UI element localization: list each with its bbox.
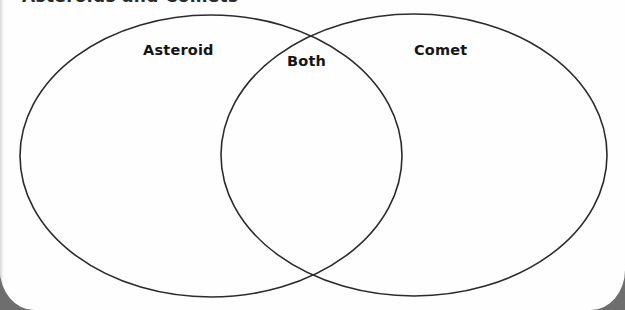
venn-diagram [0, 0, 625, 310]
asteroid-label: Asteroid [143, 42, 214, 58]
comet-label: Comet [414, 42, 467, 58]
both-label: Both [287, 53, 326, 69]
worksheet-page: Asteroids and Comets Asteroid Both Comet [0, 0, 625, 310]
